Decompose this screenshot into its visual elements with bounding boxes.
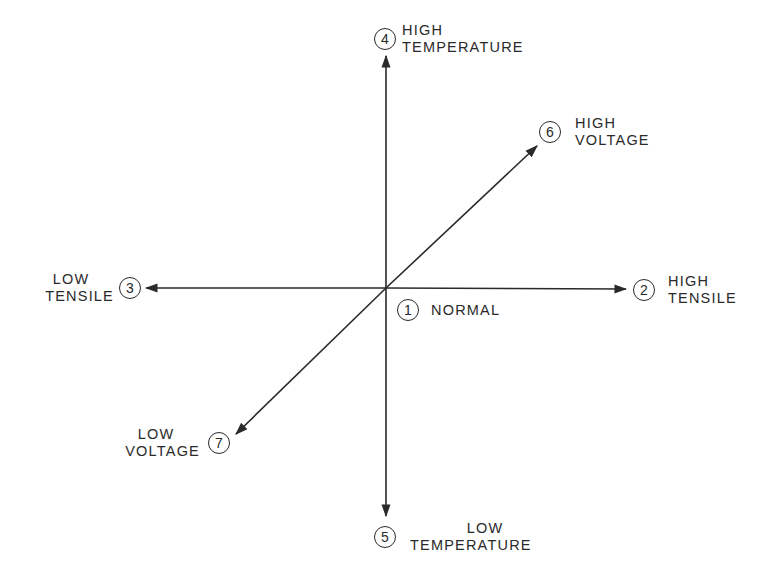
node-2-badge: 2 bbox=[633, 279, 655, 301]
high-tensile-label: HIGH TENSILE bbox=[668, 273, 737, 307]
node-1-badge: 1 bbox=[397, 299, 419, 321]
low-tensile-line2: TENSILE bbox=[28, 288, 114, 305]
low-tensile-label: LOW TENSILE bbox=[28, 271, 114, 305]
node-7-badge: 7 bbox=[208, 432, 230, 454]
high-temperature-line1: HIGH bbox=[402, 22, 524, 39]
low-voltage-label: LOW VOLTAGE bbox=[112, 426, 200, 460]
low-voltage-line1: LOW bbox=[112, 426, 200, 443]
node-5-badge: 5 bbox=[374, 526, 396, 548]
high-tensile-line1: HIGH bbox=[668, 273, 737, 290]
high-voltage-label: HIGH VOLTAGE bbox=[575, 115, 650, 149]
high-voltage-line2: VOLTAGE bbox=[575, 132, 650, 149]
node-3-badge: 3 bbox=[119, 277, 141, 299]
node-6-badge: 6 bbox=[539, 121, 561, 143]
low-voltage-line2: VOLTAGE bbox=[112, 443, 200, 460]
low-temperature-line1: LOW bbox=[410, 520, 560, 537]
voltage-axis-down bbox=[236, 288, 386, 434]
high-voltage-line1: HIGH bbox=[575, 115, 650, 132]
node-4-badge: 4 bbox=[374, 28, 396, 50]
low-temperature-line2: TEMPERATURE bbox=[410, 537, 560, 554]
low-tensile-line1: LOW bbox=[28, 271, 114, 288]
tensile-axis-right bbox=[386, 288, 626, 289]
normal-line1: NORMAL bbox=[431, 302, 500, 319]
high-temperature-line2: TEMPERATURE bbox=[402, 39, 524, 56]
high-temperature-label: HIGH TEMPERATURE bbox=[402, 22, 524, 56]
normal-label: NORMAL bbox=[431, 302, 500, 319]
low-temperature-label: LOW TEMPERATURE bbox=[410, 520, 560, 554]
high-tensile-line2: TENSILE bbox=[668, 290, 737, 307]
voltage-axis-up bbox=[386, 146, 537, 288]
